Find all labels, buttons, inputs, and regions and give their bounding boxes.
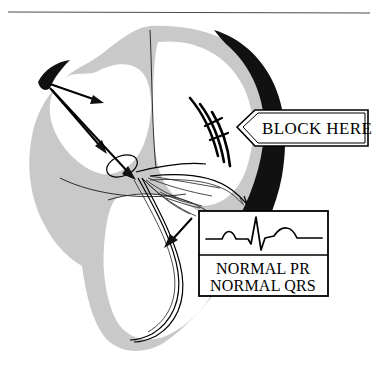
- ecg-label-line1: NORMAL PR: [216, 260, 310, 277]
- block-here-callout[interactable]: BLOCK HERE: [237, 110, 372, 146]
- heart-body: [29, 26, 285, 351]
- block-here-label: BLOCK HERE: [262, 119, 372, 138]
- top-rule: [8, 12, 370, 13]
- ecg-label-line2: NORMAL QRS: [210, 277, 316, 294]
- heart-conduction-figure: BLOCK HERE NORMAL PR NORMAL QRS: [0, 0, 377, 370]
- ecg-inset[interactable]: NORMAL PR NORMAL QRS: [199, 211, 328, 296]
